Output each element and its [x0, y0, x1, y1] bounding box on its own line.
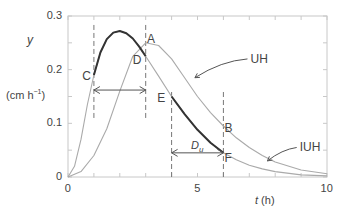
y-units-text: (cm h	[6, 89, 34, 101]
annotation-arrows	[195, 59, 297, 161]
y-tick-label: 0	[56, 171, 62, 182]
x-axis-title: t (h)	[255, 195, 275, 206]
y-tick-label: 0.1	[47, 117, 62, 128]
label-c: C	[82, 70, 91, 82]
y-tick-label: 0.3	[47, 10, 62, 21]
pointer-arrow-iuh	[267, 147, 296, 160]
y-tick-label: 0.2	[47, 64, 62, 75]
data-series	[68, 31, 327, 177]
du-label: Du	[191, 140, 203, 154]
x-tick-label: 0	[65, 183, 71, 194]
label-uh: UH	[250, 53, 267, 65]
label-e: E	[157, 92, 165, 104]
series-uh	[68, 43, 327, 177]
x-axis-units: (h)	[258, 194, 275, 206]
y-units-close: )	[41, 89, 45, 101]
y-axis-title: y	[27, 34, 33, 46]
label-iuh: IUH	[300, 141, 321, 153]
label-f: F	[225, 152, 232, 164]
label-d: D	[133, 54, 142, 66]
x-tick-label: 10	[321, 183, 333, 194]
pointer-arrow-uh	[195, 59, 248, 78]
chart-canvas	[0, 0, 348, 216]
du-subscript: u	[199, 145, 203, 154]
x-tick-label: 5	[194, 183, 200, 194]
label-b: B	[225, 122, 233, 134]
label-a: A	[147, 33, 155, 45]
du-symbol: D	[191, 139, 199, 151]
series-iuh	[68, 31, 327, 177]
y-axis-units: (cm h−1)	[6, 88, 45, 101]
